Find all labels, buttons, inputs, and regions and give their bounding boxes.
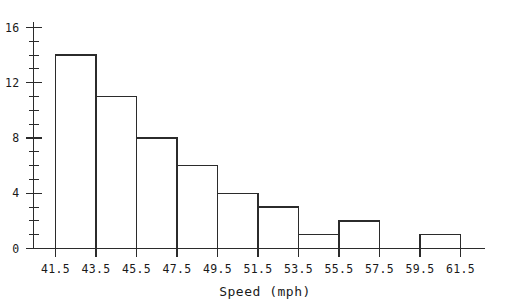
y-tick-label: 8 [12,131,19,145]
x-tick-label: 49.5 [203,262,232,276]
x-tick-label: 57.5 [365,262,394,276]
y-tick-label: 4 [12,186,19,200]
histogram-chart: 0481216 41.543.545.547.549.551.553.555.5… [0,0,506,302]
x-tick-label: 47.5 [163,262,192,276]
x-axis-tick-labels: 41.543.545.547.549.551.553.555.557.559.5… [41,262,475,276]
x-tick-label: 55.5 [325,262,354,276]
y-tick-label: 12 [5,76,19,90]
chart-background [0,0,506,302]
x-tick-label: 45.5 [122,262,151,276]
x-axis-title: Speed (mph) [219,284,311,299]
x-tick-label: 53.5 [284,262,313,276]
x-tick-label: 51.5 [244,262,273,276]
x-tick-label: 43.5 [82,262,111,276]
x-tick-label: 41.5 [41,262,70,276]
x-tick-label: 61.5 [446,262,475,276]
y-tick-label: 0 [12,242,19,256]
x-tick-label: 59.5 [406,262,435,276]
histogram-svg: 0481216 41.543.545.547.549.551.553.555.5… [0,0,506,302]
y-tick-label: 16 [5,21,19,35]
